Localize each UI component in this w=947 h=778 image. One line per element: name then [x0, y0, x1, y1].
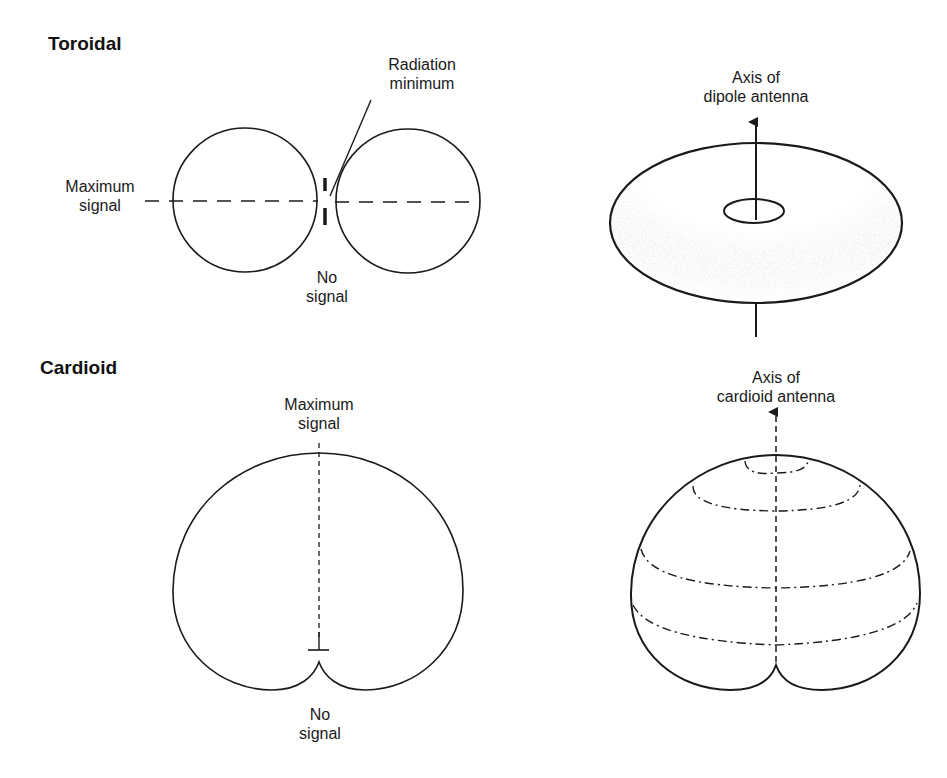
cardioid-maximum-signal-line1: Maximum — [264, 395, 374, 414]
cardioid-no-signal-label: No signal — [285, 705, 355, 743]
toroidal-no-signal-label: No signal — [292, 268, 362, 306]
latitude-4 — [633, 603, 917, 645]
left-lobe — [173, 128, 317, 272]
cardioid-2d-pattern — [173, 443, 463, 690]
dipole-axis-line1: Axis of — [681, 68, 831, 87]
cardioid-maximum-signal-line2: signal — [264, 414, 374, 433]
radiation-minimum-line1: Radiation — [372, 55, 472, 74]
radiation-minimum-label: Radiation minimum — [372, 55, 472, 93]
dipole-axis-label: Axis of dipole antenna — [681, 68, 831, 106]
toroidal-2d-pattern — [145, 100, 480, 273]
cardioid-maximum-signal-label: Maximum signal — [264, 395, 374, 433]
dipole-axis-line2: dipole antenna — [681, 87, 831, 106]
cardioid-axis-line1: Axis of — [691, 368, 861, 387]
right-lobe — [336, 129, 480, 273]
toroidal-no-signal-line2: signal — [292, 287, 362, 306]
cardioid-axis-line2: cardioid antenna — [691, 387, 861, 406]
toroidal-no-signal-line1: No — [292, 268, 362, 287]
dipole-3d-pattern — [610, 122, 902, 337]
cardioid-axis-label: Axis of cardioid antenna — [691, 368, 861, 406]
cardioid-no-signal-line1: No — [285, 705, 355, 724]
toroidal-maximum-signal-line2: signal — [45, 196, 155, 215]
toroidal-maximum-signal-label: Maximum signal — [45, 177, 155, 215]
radiation-minimum-leader — [330, 100, 371, 196]
toroidal-maximum-signal-line1: Maximum — [45, 177, 155, 196]
cardioid-outline — [173, 453, 463, 690]
radiation-minimum-line2: minimum — [372, 74, 472, 93]
torus-hole — [724, 199, 784, 223]
cardioid-no-signal-line2: signal — [285, 724, 355, 743]
cardioid-3d-pattern — [631, 412, 920, 690]
